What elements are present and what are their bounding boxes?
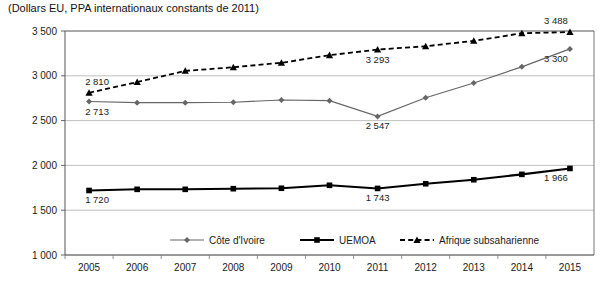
marker-square [231, 186, 237, 192]
ytick-label: 2 000 [32, 160, 57, 171]
marker-diamond [519, 64, 525, 70]
ytick-label: 2 500 [32, 115, 57, 126]
legend-label: Côte d'Ivoire [209, 235, 265, 246]
marker-square [86, 188, 92, 194]
xtick-label: 2006 [126, 262, 149, 273]
xtick-label: 2014 [511, 262, 534, 273]
series-line [89, 32, 570, 93]
xtick-label: 2011 [367, 262, 389, 273]
marker-square [471, 177, 477, 183]
marker-square [314, 237, 320, 243]
data-point-label: 1 966 [544, 172, 568, 183]
data-point-label: 1 743 [366, 192, 390, 203]
xtick-label: 2007 [174, 262, 197, 273]
chart-container: (Dollars EU, PPA internationaux constant… [0, 0, 606, 288]
marker-diamond [471, 80, 477, 86]
data-point-label: 3 300 [544, 53, 568, 64]
marker-square [134, 187, 140, 193]
marker-diamond [230, 99, 236, 105]
data-point-label: 2 713 [85, 106, 109, 117]
legend-label: Afrique subsaharienne [439, 235, 540, 246]
marker-diamond [182, 100, 188, 106]
chart-plot-area: 3 5003 0002 5002 0001 5001 0002005200620… [0, 0, 606, 288]
marker-square [375, 186, 381, 192]
marker-diamond [567, 46, 573, 52]
xtick-label: 2005 [78, 262, 101, 273]
ytick-label: 3 500 [32, 26, 57, 37]
marker-triangle [566, 28, 573, 35]
marker-diamond [184, 237, 190, 243]
xtick-label: 2010 [318, 262, 341, 273]
ytick-label: 1 500 [32, 205, 57, 216]
data-point-label: 1 720 [85, 194, 109, 205]
marker-diamond [134, 100, 140, 106]
legend-label: UEMOA [339, 235, 376, 246]
xtick-label: 2008 [222, 262, 245, 273]
xtick-label: 2012 [415, 262, 438, 273]
xtick-label: 2015 [559, 262, 582, 273]
xtick-label: 2013 [463, 262, 486, 273]
data-point-label: 3 293 [366, 54, 390, 65]
marker-square [182, 187, 188, 193]
marker-diamond [375, 113, 381, 119]
marker-square [423, 181, 429, 187]
marker-square [279, 185, 285, 191]
marker-diamond [278, 97, 284, 103]
series-line [89, 49, 570, 116]
data-point-label: 2 810 [85, 76, 109, 87]
data-point-label: 3 488 [544, 15, 568, 26]
ytick-label: 1 000 [32, 250, 57, 261]
data-point-label: 2 547 [366, 120, 390, 131]
marker-square [327, 182, 333, 188]
marker-square [519, 172, 525, 178]
marker-diamond [327, 98, 333, 104]
marker-square [567, 166, 573, 172]
marker-diamond [423, 95, 429, 101]
marker-diamond [86, 99, 92, 105]
ytick-label: 3 000 [32, 70, 57, 81]
xtick-label: 2009 [270, 262, 293, 273]
